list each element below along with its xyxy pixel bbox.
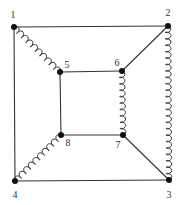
edge-7-3-plain: [123, 135, 169, 180]
node-3: [166, 177, 172, 183]
node-label-1: 1: [11, 9, 16, 20]
node-2: [165, 23, 171, 29]
edge-4-8-wavy: [15, 135, 63, 183]
node-5: [57, 69, 63, 75]
edge-2-3-wavy: [165, 26, 172, 181]
edge-1-5-wavy: [12, 26, 60, 74]
node-8: [58, 132, 64, 138]
edges-layer: [12, 26, 172, 183]
node-label-3: 3: [167, 189, 172, 200]
node-label-6: 6: [115, 57, 120, 68]
edge-5-6-plain: [60, 71, 122, 72]
edge-5-8-plain: [60, 72, 61, 135]
edge-6-7-wavy: [119, 71, 125, 136]
graph-diagram: 12345678: [0, 0, 184, 205]
edge-1-4-plain: [14, 27, 15, 181]
node-4: [12, 178, 18, 184]
edge-4-3-plain: [15, 180, 169, 181]
node-6: [119, 68, 125, 74]
labels-layer: 12345678: [11, 7, 172, 200]
edge-2-6-plain: [122, 26, 168, 71]
node-label-5: 5: [65, 59, 70, 70]
edge-1-2-plain: [14, 26, 168, 27]
node-label-4: 4: [13, 189, 18, 200]
node-label-8: 8: [66, 137, 71, 148]
node-7: [120, 132, 126, 138]
node-1: [11, 24, 17, 30]
node-label-7: 7: [116, 139, 121, 150]
node-label-2: 2: [166, 7, 171, 18]
